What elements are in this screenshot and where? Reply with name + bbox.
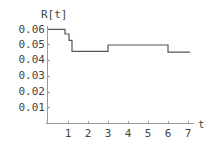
x-tick-label: 5 <box>145 127 152 140</box>
y-tick-label: 0.06 <box>19 23 46 36</box>
y-axis-title: R[t] <box>41 8 68 21</box>
x-tick-label: 6 <box>165 127 172 140</box>
y-tick-label: 0.02 <box>19 85 46 98</box>
step-chart: R[t] 0.06 0.05 0.04 0.03 0.02 0.01 1 2 3… <box>0 0 216 144</box>
y-tick-label: 0.03 <box>19 69 46 82</box>
x-tick-label: 4 <box>125 127 132 140</box>
x-tick-labels: 1 2 3 4 5 6 7 <box>65 127 192 140</box>
x-tick-label: 1 <box>65 127 72 140</box>
y-tick-label: 0.05 <box>19 38 46 51</box>
y-tick-labels: 0.06 0.05 0.04 0.03 0.02 0.01 <box>19 23 46 114</box>
x-tick-label: 2 <box>85 127 92 140</box>
x-tick-label: 3 <box>105 127 112 140</box>
x-axis-title: t <box>198 118 205 131</box>
y-tick-label: 0.04 <box>19 53 46 66</box>
y-tick-label: 0.01 <box>19 101 46 114</box>
x-tick-label: 7 <box>185 127 192 140</box>
axes <box>46 26 194 124</box>
series-line <box>48 29 190 52</box>
